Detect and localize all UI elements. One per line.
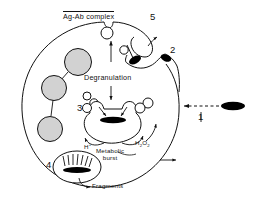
h-plus-label: H+: [84, 143, 91, 151]
vesicle-free-a: [83, 92, 91, 100]
vesicle-upper: [120, 46, 128, 54]
chemotaxis-group: [184, 102, 245, 122]
step-2-label: 2: [170, 45, 175, 55]
granule-3: [38, 117, 63, 142]
h2o2-sub-2b: 2: [147, 143, 150, 148]
step-1-label: 1: [198, 112, 203, 122]
h-plus-superscript: +: [89, 142, 92, 147]
fusing-vesicle-left: [83, 104, 92, 113]
free-bacterium: [221, 102, 245, 110]
vesicle-pinocytic: [101, 27, 113, 39]
degranulation-label: Degranulation: [84, 74, 131, 82]
step-4-label: 4: [46, 160, 51, 170]
phagocytosis-diagram: Ag-Ab complex 5 2 1 Degranulation 3 H+ H…: [0, 0, 266, 199]
metabolic-burst-label: Metabolic burst: [96, 148, 124, 161]
metabolic-burst-line-2: burst: [96, 155, 124, 162]
bacterium-digesting: [63, 167, 91, 173]
diagram-canvas: [0, 0, 266, 199]
vesicles: [83, 27, 153, 108]
phagosome-group: [83, 101, 146, 143]
fragments-label: Fragments: [92, 183, 123, 190]
granule-2: [42, 76, 67, 101]
h2o2-label: H2O2: [135, 140, 150, 149]
fusing-vesicle-right: [135, 103, 145, 113]
step-3-label: 3: [77, 103, 82, 113]
ag-ab-complex-label: Ag-Ab complex: [63, 11, 114, 21]
bacterium-in-phagosome: [100, 117, 126, 123]
granule-1: [65, 49, 92, 76]
step-5-label: 5: [150, 12, 155, 22]
